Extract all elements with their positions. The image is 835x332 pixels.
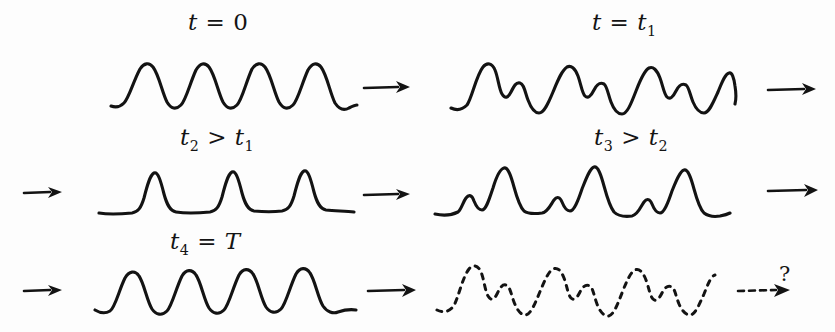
panel-label-t2: t2 > t1	[180, 124, 254, 154]
arrow-row1-mid	[362, 76, 414, 98]
panel-t1	[448, 56, 738, 118]
label-value-zero: 0	[233, 9, 248, 35]
label-rel-greater: >	[621, 124, 649, 150]
label-rel-equals: =	[197, 228, 225, 254]
label-var-t4: t4	[170, 228, 189, 254]
uncertainty-question-mark: ?	[779, 262, 790, 286]
label-value-t1: t1	[637, 9, 656, 35]
label-value-t1: t1	[235, 124, 254, 150]
panel-label-t1: t = t1	[592, 9, 656, 39]
wave-t2	[96, 166, 358, 222]
label-var-t: t	[188, 9, 198, 35]
panel-future	[434, 256, 724, 322]
label-value-T: T	[225, 228, 241, 254]
arrow-row2-end	[766, 180, 822, 202]
handwritten-diagram-sheet: t = 0 t = t1 t2 > t1	[0, 0, 835, 332]
wave-future-dashed	[434, 256, 724, 322]
label-var-t2: t2	[180, 124, 199, 150]
panel-label-t3: t3 > t2	[594, 124, 668, 154]
panel-label-t4: t4 = T	[170, 228, 241, 258]
wave-t4	[92, 264, 360, 322]
panel-t0	[108, 58, 360, 116]
arrow-row2-start	[22, 182, 66, 202]
wave-t1	[448, 56, 738, 118]
panel-t2	[96, 166, 358, 222]
label-var-t3: t3	[594, 124, 613, 150]
arrow-row3-mid	[366, 280, 420, 302]
panel-t4	[92, 264, 360, 322]
label-var-t: t	[592, 9, 602, 35]
wave-t3	[432, 160, 732, 224]
arrow-row1-end	[766, 78, 820, 100]
label-rel-greater: >	[207, 124, 235, 150]
arrow-row2-mid	[362, 184, 414, 206]
label-rel-equals: =	[206, 9, 234, 35]
panel-label-t0: t = 0	[188, 9, 248, 35]
arrow-row3-start	[22, 280, 66, 300]
wave-t0	[108, 58, 360, 116]
label-value-t2: t2	[649, 124, 668, 150]
label-rel-equals: =	[610, 9, 638, 35]
panel-t3	[432, 160, 732, 224]
arrow-row3-end	[736, 278, 800, 302]
